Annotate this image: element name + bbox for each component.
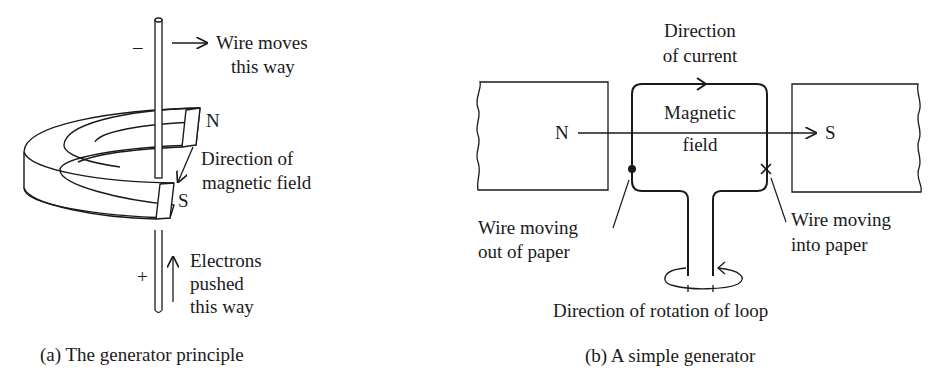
label-electrons-3: this way <box>190 296 254 318</box>
plus-sign: + <box>137 266 148 288</box>
label-into-paper-2: into paper <box>791 234 868 256</box>
label-wire-moves-1: Wire moves <box>216 32 308 54</box>
label-field-a-2: magnetic field <box>202 172 311 194</box>
label-north-a: N <box>206 110 220 132</box>
label-field-b-2: field <box>646 134 754 156</box>
label-south-b: S <box>825 122 836 144</box>
magnet-south-block <box>792 84 921 192</box>
caption-a: (a) The generator principle <box>40 344 244 366</box>
label-current-1: Direction <box>638 20 762 42</box>
label-south-a: S <box>178 190 189 212</box>
label-out-of-paper-1: Wire moving <box>478 217 578 239</box>
caption-b: (b) A simple generator <box>585 345 755 367</box>
label-rotation: Direction of rotation of loop <box>553 300 768 322</box>
label-out-of-paper-2: out of paper <box>478 241 570 263</box>
diagram-artwork <box>0 0 936 387</box>
label-current-2: of current <box>638 45 762 67</box>
leader-lines <box>613 178 786 228</box>
horseshoe-magnet <box>24 108 200 219</box>
label-wire-moves-2: this way <box>231 56 295 78</box>
label-electrons-1: Electrons <box>190 250 262 272</box>
wire-out-dot <box>628 165 636 173</box>
label-north-b: N <box>555 122 569 144</box>
label-field-a-1: Direction of <box>201 148 293 170</box>
rotation-ellipse <box>665 262 742 292</box>
label-electrons-2: pushed <box>190 273 244 295</box>
wire-a <box>155 18 162 313</box>
label-into-paper-1: Wire moving <box>791 209 891 231</box>
label-field-b-1: Magnetic <box>646 102 754 124</box>
minus-sign: – <box>133 36 143 58</box>
magnet-north-block <box>477 82 608 190</box>
field-arrow-a <box>178 147 193 182</box>
